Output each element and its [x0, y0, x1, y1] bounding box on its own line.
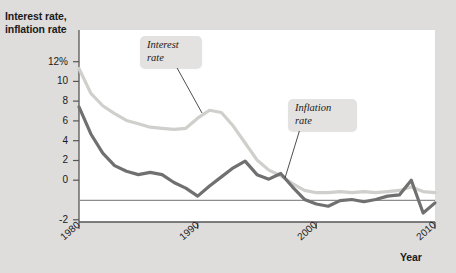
y-tick-marks	[73, 62, 79, 220]
y-axis-title-line-1: Interest rate,	[5, 10, 67, 22]
y-axis-title-line-2: inflation rate	[5, 23, 67, 35]
y-tick-label-minus-2: -2	[38, 214, 68, 225]
y-tick-label-2: 2	[38, 154, 68, 165]
y-tick-label-6: 6	[38, 115, 68, 126]
y-tick-label-0: 0	[38, 174, 68, 185]
callout-inflation-rate: Inflation rate	[288, 99, 357, 131]
callout-interest-rate: Interest rate	[140, 36, 202, 68]
callout-inflation-line-1: Inflation	[295, 102, 331, 113]
y-tick-label-8: 8	[38, 95, 68, 106]
y-tick-label-4: 4	[38, 135, 68, 146]
leader-line-inflation	[285, 129, 300, 178]
leader-line-interest	[176, 66, 202, 113]
chart-figure: Interest rate, inflation rate Year 12% 1…	[0, 0, 456, 273]
callout-interest-line-2: rate	[147, 52, 164, 63]
y-tick-label-12: 12%	[38, 56, 68, 67]
callout-interest-line-1: Interest	[147, 39, 179, 50]
y-tick-label-10: 10	[38, 75, 68, 86]
x-axis-title: Year	[400, 251, 422, 264]
x-tick-marks	[79, 222, 435, 229]
callout-inflation-line-2: rate	[295, 115, 312, 126]
y-axis-title: Interest rate, inflation rate	[5, 10, 79, 35]
